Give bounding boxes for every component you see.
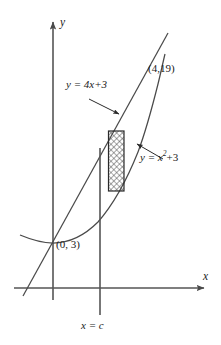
y-axis-label: y: [60, 17, 65, 29]
vertical-line-label-prefix: x =: [81, 319, 99, 331]
shaded-rectangle-hatch-overlay: [109, 131, 125, 191]
leader-arrow-line-equation: [89, 99, 119, 114]
parabola-equation-label: y = x2+3: [140, 150, 178, 163]
graph-figure: y x y = 4x+3 (4,19) y = x2+3 (0, 3) x = …: [0, 0, 221, 345]
parabola-equation-prefix: y = x: [140, 151, 163, 163]
point-label-0-3: (0, 3): [56, 239, 80, 250]
secant-line: [23, 33, 168, 296]
parabola-equation-suffix: +3: [166, 151, 178, 163]
point-label-4-19: (4,19): [148, 63, 175, 74]
line-equation-text: y = 4x+3: [66, 78, 107, 90]
graph-canvas: [0, 0, 221, 345]
vertical-line-label-value: c: [99, 319, 104, 331]
line-equation-label: y = 4x+3: [66, 79, 107, 90]
vertical-line-label: x = c: [81, 320, 104, 331]
x-axis-label: x: [203, 271, 208, 283]
